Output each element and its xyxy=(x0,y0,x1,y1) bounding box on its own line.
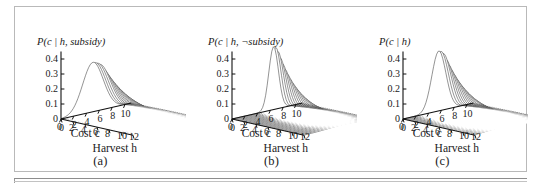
y-tick-c-0: 0 xyxy=(399,122,404,132)
x-tick-b-4: 8 xyxy=(278,111,289,121)
y-tick-c-5: 10 xyxy=(459,131,469,141)
x-axis-label-c: Cost c xyxy=(413,128,442,140)
y-tick-a-0: 0 xyxy=(57,122,62,132)
z-tick-c-4: 0 xyxy=(379,114,400,124)
z-axis-title-a: P(c | h, subsidy) xyxy=(37,37,105,48)
horizontal-rule-bottom xyxy=(14,181,527,182)
figure-root: P(c | h, subsidy)0.40.30.20.100246810024… xyxy=(0,0,541,195)
panel-caption-a: (a) xyxy=(15,154,186,169)
y-axis-label-c: Harvest h xyxy=(435,143,479,155)
z-tick-a-3: 0.1 xyxy=(37,99,58,109)
y-tick-a-6: 12 xyxy=(129,132,139,142)
y-tick-c-4: 8 xyxy=(447,129,452,139)
x-tick-a-4: 8 xyxy=(107,111,118,121)
figure-border-box: P(c | h, subsidy)0.40.30.20.100246810024… xyxy=(14,6,527,172)
x-tick-a-3: 6 xyxy=(94,114,105,124)
panel-caption-c: (c) xyxy=(357,154,528,169)
z-axis-title-c: P(c | h) xyxy=(379,37,410,48)
horizontal-rule-top xyxy=(14,178,527,179)
z-axis-title-b: P(c | h, ¬subsidy) xyxy=(208,37,283,48)
y-axis-label-a: Harvest h xyxy=(93,143,137,155)
x-tick-c-5: 10 xyxy=(462,109,473,119)
y-tick-b-6: 12 xyxy=(300,132,310,142)
y-tick-c-6: 12 xyxy=(471,132,481,142)
panel-caption-b: (b) xyxy=(186,154,357,169)
x-tick-a-5: 10 xyxy=(120,109,131,119)
z-tick-c-3: 0.1 xyxy=(379,99,400,109)
y-tick-a-5: 10 xyxy=(117,131,127,141)
z-tick-b-3: 0.1 xyxy=(208,99,229,109)
y-tick-b-4: 8 xyxy=(276,129,281,139)
z-tick-c-1: 0.3 xyxy=(379,69,400,79)
x-tick-c-3: 6 xyxy=(436,114,447,124)
z-tick-b-4: 0 xyxy=(208,114,229,124)
z-tick-b-0: 0.4 xyxy=(208,54,229,64)
y-tick-b-0: 0 xyxy=(228,122,233,132)
panel-a: P(c | h, subsidy)0.40.30.20.100246810024… xyxy=(15,7,186,173)
x-tick-c-4: 8 xyxy=(449,111,460,121)
z-tick-c-2: 0.2 xyxy=(379,84,400,94)
z-tick-c-0: 0.4 xyxy=(379,54,400,64)
z-tick-a-2: 0.2 xyxy=(37,84,58,94)
x-axis-label-a: Cost c xyxy=(71,128,100,140)
y-tick-a-4: 8 xyxy=(105,129,110,139)
x-axis-label-b: Cost c xyxy=(242,128,271,140)
y-tick-b-5: 10 xyxy=(288,131,298,141)
z-tick-a-0: 0.4 xyxy=(37,54,58,64)
panel-row: P(c | h, subsidy)0.40.30.20.100246810024… xyxy=(15,7,528,173)
z-tick-a-4: 0 xyxy=(37,114,58,124)
panel-c: P(c | h)0.40.30.20.100246810024681012Cos… xyxy=(357,7,528,173)
y-axis-label-b: Harvest h xyxy=(264,143,308,155)
x-tick-b-5: 10 xyxy=(291,109,302,119)
z-tick-a-1: 0.3 xyxy=(37,69,58,79)
x-tick-b-3: 6 xyxy=(265,114,276,124)
panel-b: P(c | h, ¬subsidy)0.40.30.20.10024681002… xyxy=(186,7,357,173)
z-tick-b-1: 0.3 xyxy=(208,69,229,79)
z-tick-b-2: 0.2 xyxy=(208,84,229,94)
